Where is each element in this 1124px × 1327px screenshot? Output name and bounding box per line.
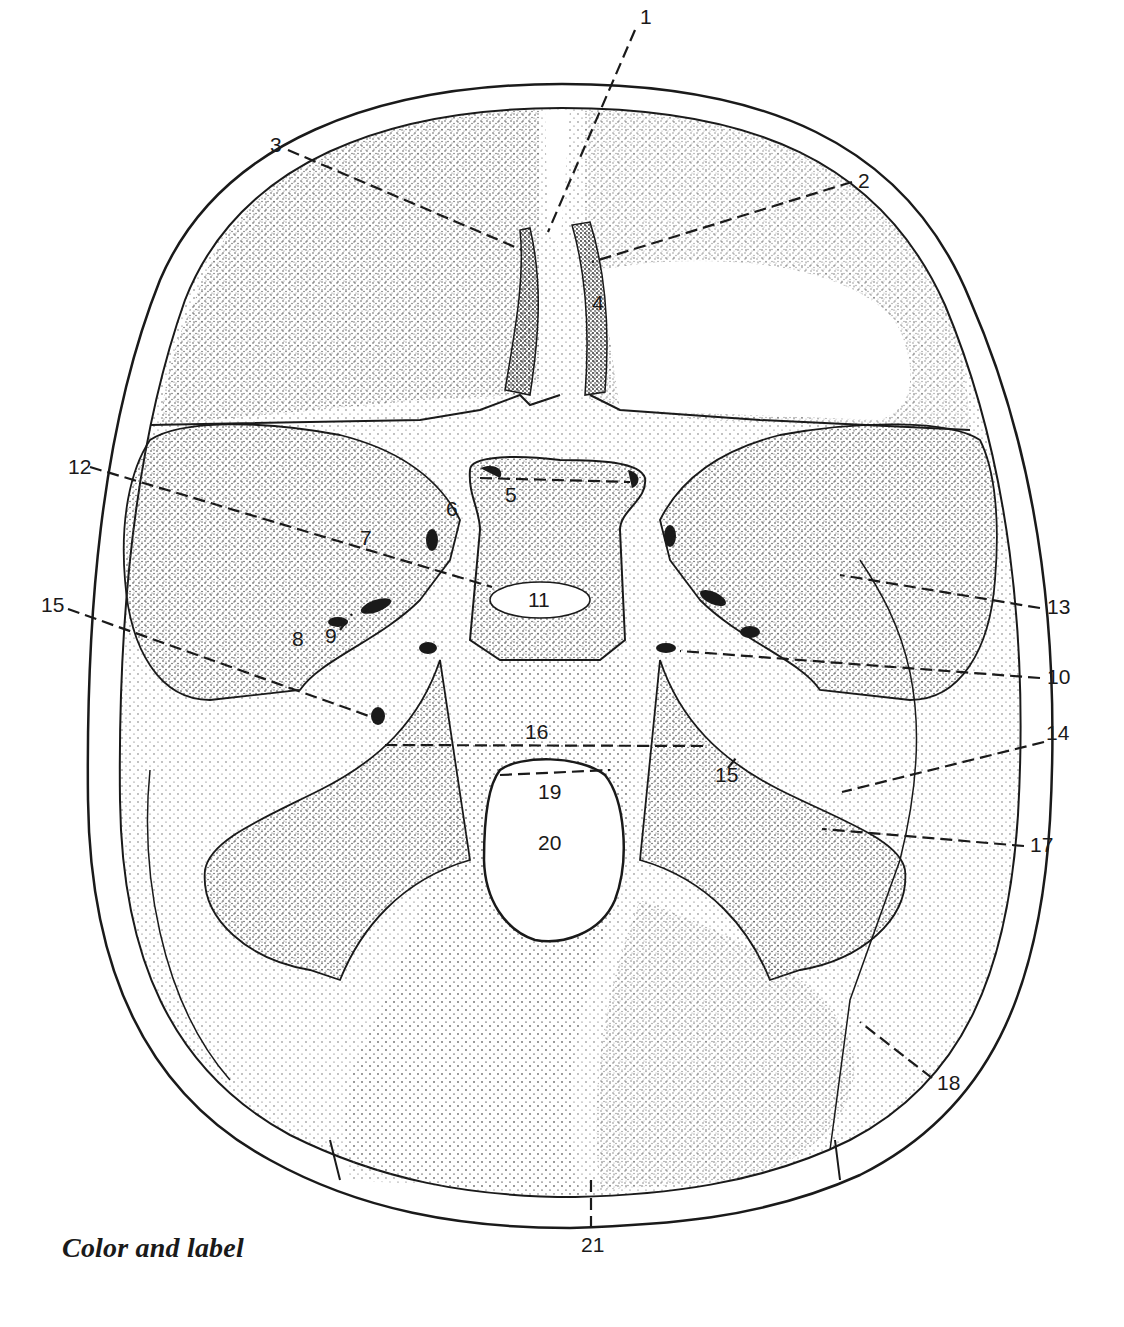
- label-3: 3: [270, 133, 282, 156]
- label-7: 7: [360, 526, 372, 549]
- label-2: 2: [858, 169, 870, 192]
- skull-base-illustration: 12345678910111213141515161917182021: [0, 0, 1124, 1327]
- label-6: 6: [446, 497, 458, 520]
- figure-caption: Color and label: [62, 1232, 244, 1264]
- label-19: 19: [538, 780, 561, 803]
- label-4: 4: [592, 291, 604, 314]
- label-12: 12: [68, 455, 91, 478]
- label-13: 13: [1047, 595, 1070, 618]
- label-20: 20: [538, 831, 561, 854]
- label-8: 8: [292, 627, 304, 650]
- label-1: 1: [640, 5, 652, 28]
- label-15b: 15: [715, 763, 738, 786]
- label-15: 15: [41, 593, 64, 616]
- label-17: 17: [1030, 833, 1053, 856]
- label-21: 21: [581, 1233, 604, 1256]
- label-9: 9: [325, 624, 337, 647]
- label-14: 14: [1046, 721, 1070, 744]
- label-18: 18: [937, 1071, 960, 1094]
- label-5: 5: [505, 483, 517, 506]
- label-16: 16: [525, 720, 548, 743]
- label-10: 10: [1047, 665, 1070, 688]
- label-11: 11: [528, 588, 550, 611]
- sella-turcica: [470, 457, 645, 660]
